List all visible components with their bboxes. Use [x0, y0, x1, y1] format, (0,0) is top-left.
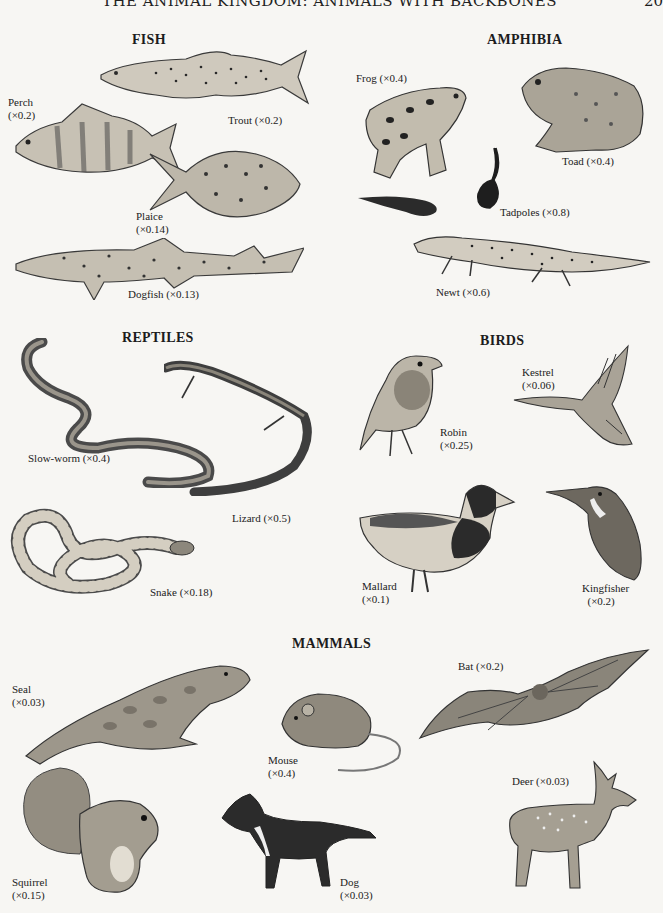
- deer-label: Deer (×0.03): [512, 775, 569, 788]
- seal-illustration: [20, 660, 252, 772]
- squirrel-label: Squirrel (×0.15): [12, 876, 47, 902]
- dogfish-label: Dogfish (×0.13): [128, 288, 199, 301]
- kingfisher-illustration: [544, 484, 646, 584]
- kestrel-illustration: [512, 344, 634, 450]
- lizard-label: Lizard (×0.5): [232, 512, 291, 525]
- section-title-amphibia: AMPHIBIA: [487, 32, 563, 48]
- slow-worm-label: Slow-worm (×0.4): [28, 452, 110, 465]
- toad-label: Toad (×0.4): [562, 155, 614, 168]
- toad-illustration: [516, 64, 648, 156]
- snake-label: Snake (×0.18): [150, 586, 212, 599]
- snake-illustration: [8, 498, 198, 598]
- plaice-label: Plaice (×0.14): [136, 210, 169, 236]
- mouse-label: Mouse (×0.4): [268, 754, 298, 780]
- lizard-illustration: [164, 360, 314, 496]
- newt-label: Newt (×0.6): [436, 286, 490, 299]
- mallard-label: Mallard (×0.1): [362, 580, 397, 606]
- robin-label: Robin (×0.25): [440, 426, 473, 452]
- tadpole-1-illustration: [356, 190, 440, 218]
- dog-label: Dog (×0.03): [340, 876, 373, 902]
- page-number: 20: [644, 0, 663, 10]
- plaice-illustration: [146, 144, 304, 230]
- robin-illustration: [356, 350, 446, 460]
- tadpoles-label: Tadpoles (×0.8): [500, 206, 570, 219]
- trout-label: Trout (×0.2): [228, 114, 282, 127]
- bat-illustration: [418, 648, 650, 740]
- section-title-mammals: MAMMALS: [292, 636, 371, 652]
- trout-illustration: [96, 43, 311, 106]
- tadpole-2-illustration: [474, 146, 504, 210]
- newt-illustration: [412, 232, 652, 288]
- kingfisher-label: Kingfisher (×0.2): [582, 582, 629, 608]
- page-header: THE ANIMAL KINGDOM: ANIMALS WITH BACKBON…: [0, 0, 659, 8]
- frog-illustration: [360, 80, 478, 180]
